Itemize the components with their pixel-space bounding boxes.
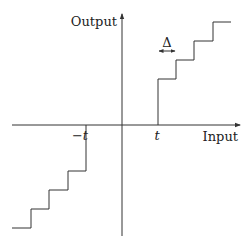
threshold-negative-label: −t [72, 128, 89, 143]
y-axis-label: Output [71, 14, 118, 29]
quantizer-diagram: Δ Output Input t −t [0, 0, 249, 249]
step-width-label: Δ [162, 35, 171, 50]
x-axis-label: Input [203, 129, 239, 144]
threshold-positive-label: t [154, 128, 160, 143]
diagram-canvas: Δ Output Input t −t [0, 0, 249, 249]
